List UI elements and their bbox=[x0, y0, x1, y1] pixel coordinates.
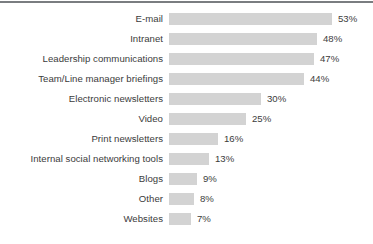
category-label: Internal social networking tools bbox=[0, 149, 163, 169]
bar-row: Electronic newsletters30% bbox=[0, 89, 373, 109]
bar-track: 48% bbox=[169, 29, 373, 49]
category-label: Video bbox=[0, 109, 163, 129]
horizontal-bar-chart: E-mail53%Intranet48%Leadership communica… bbox=[0, 0, 373, 244]
category-label: Blogs bbox=[0, 169, 163, 189]
value-label: 48% bbox=[323, 29, 342, 49]
bar-fill bbox=[169, 133, 218, 145]
bar-row: Other8% bbox=[0, 189, 373, 209]
category-label: Websites bbox=[0, 209, 163, 229]
bar-row: Internal social networking tools13% bbox=[0, 149, 373, 169]
value-label: 7% bbox=[197, 209, 211, 229]
value-label: 16% bbox=[224, 129, 243, 149]
bar-row: Blogs9% bbox=[0, 169, 373, 189]
category-label: Leadership communications bbox=[0, 49, 163, 69]
bar-fill bbox=[169, 113, 246, 125]
category-label: Team/Line manager briefings bbox=[0, 69, 163, 89]
category-label: Print newsletters bbox=[0, 129, 163, 149]
bar-row: Websites7% bbox=[0, 209, 373, 229]
category-label: E-mail bbox=[0, 9, 163, 29]
chart-plot-area: E-mail53%Intranet48%Leadership communica… bbox=[0, 9, 373, 241]
category-label: Other bbox=[0, 189, 163, 209]
bar-row: Print newsletters16% bbox=[0, 129, 373, 149]
bar-track: 53% bbox=[169, 9, 373, 29]
value-label: 30% bbox=[267, 89, 286, 109]
bar-fill bbox=[169, 53, 314, 65]
category-label: Intranet bbox=[0, 29, 163, 49]
bar-track: 8% bbox=[169, 189, 373, 209]
bar-fill bbox=[169, 213, 191, 225]
bar-track: 47% bbox=[169, 49, 373, 69]
bar-fill bbox=[169, 73, 304, 85]
value-label: 13% bbox=[215, 149, 234, 169]
category-label: Electronic newsletters bbox=[0, 89, 163, 109]
bar-row: Team/Line manager briefings44% bbox=[0, 69, 373, 89]
bar-fill bbox=[169, 33, 317, 45]
bar-row: E-mail53% bbox=[0, 9, 373, 29]
bar-row: Video25% bbox=[0, 109, 373, 129]
value-label: 44% bbox=[310, 69, 329, 89]
value-label: 8% bbox=[200, 189, 214, 209]
bar-track: 44% bbox=[169, 69, 373, 89]
value-label: 25% bbox=[252, 109, 271, 129]
bar-track: 7% bbox=[169, 209, 373, 229]
value-label: 47% bbox=[320, 49, 339, 69]
bar-fill bbox=[169, 93, 261, 105]
bar-fill bbox=[169, 153, 209, 165]
bar-fill bbox=[169, 173, 197, 185]
bar-track: 25% bbox=[169, 109, 373, 129]
value-label: 9% bbox=[203, 169, 217, 189]
bar-fill bbox=[169, 13, 332, 25]
value-label: 53% bbox=[338, 9, 357, 29]
top-divider-rule bbox=[0, 1, 373, 3]
bar-track: 13% bbox=[169, 149, 373, 169]
bar-track: 9% bbox=[169, 169, 373, 189]
bar-row: Intranet48% bbox=[0, 29, 373, 49]
bar-fill bbox=[169, 193, 194, 205]
bar-track: 30% bbox=[169, 89, 373, 109]
bar-row: Leadership communications47% bbox=[0, 49, 373, 69]
bar-track: 16% bbox=[169, 129, 373, 149]
